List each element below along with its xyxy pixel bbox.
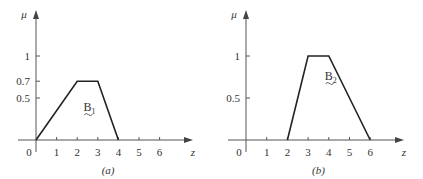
series-label-main: B bbox=[83, 100, 91, 114]
figure: μz01234560.50.71B1(a)μz01234560.51B2(b) bbox=[0, 0, 423, 179]
x-tick-label: 6 bbox=[367, 146, 373, 158]
series-label: B2 bbox=[325, 69, 337, 85]
y-tick-label: 1 bbox=[25, 50, 31, 62]
panel-label: (b) bbox=[312, 164, 325, 177]
x-axis-label: z bbox=[190, 146, 196, 158]
x-tick-label: 1 bbox=[264, 146, 270, 158]
x-tick-label: 5 bbox=[136, 146, 142, 158]
x-axis-arrow-icon bbox=[395, 137, 404, 143]
y-axis-arrow-icon bbox=[33, 10, 39, 19]
x-tick-label: 6 bbox=[157, 146, 163, 158]
x-tick-label: 2 bbox=[74, 146, 80, 158]
series-label-subscript: 2 bbox=[333, 76, 337, 85]
x-tick-label: 3 bbox=[305, 146, 311, 158]
membership-function-b1 bbox=[36, 81, 118, 140]
x-tick-label: 1 bbox=[54, 146, 60, 158]
y-tick-label: 0.7 bbox=[16, 75, 30, 87]
y-tick-label: 0.5 bbox=[226, 92, 240, 104]
y-axis-label: μ bbox=[230, 8, 237, 20]
origin-label: 0 bbox=[236, 146, 242, 158]
origin-label: 0 bbox=[26, 146, 32, 158]
y-axis-label: μ bbox=[20, 8, 27, 20]
x-tick-label: 4 bbox=[116, 146, 122, 158]
series-label-subscript: 1 bbox=[91, 107, 95, 116]
series-label: B1 bbox=[83, 100, 95, 116]
y-tick-label: 1 bbox=[235, 50, 241, 62]
x-tick-label: 5 bbox=[347, 146, 353, 158]
x-axis-label: z bbox=[401, 146, 407, 158]
x-tick-label: 2 bbox=[285, 146, 291, 158]
series-label-main: B bbox=[325, 69, 333, 83]
y-axis-arrow-icon bbox=[243, 10, 249, 19]
chart-panel-b: μz01234560.51B2(b) bbox=[226, 8, 407, 177]
x-tick-label: 4 bbox=[326, 146, 332, 158]
y-tick-label: 0.5 bbox=[16, 92, 30, 104]
x-tick-label: 3 bbox=[95, 146, 101, 158]
chart-panel-a: μz01234560.50.71B1(a) bbox=[16, 8, 196, 177]
x-axis-arrow-icon bbox=[184, 137, 193, 143]
panel-label: (a) bbox=[102, 164, 115, 177]
